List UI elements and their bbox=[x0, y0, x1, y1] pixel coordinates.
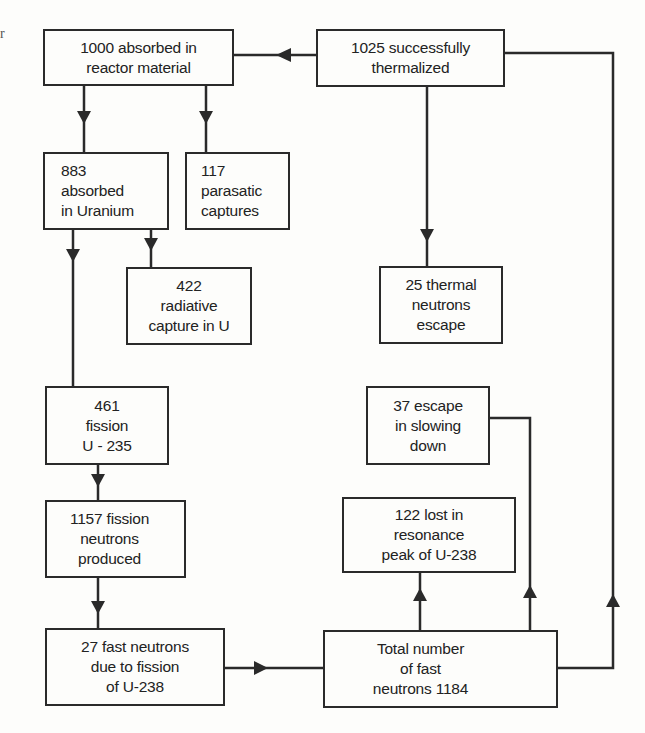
node-text: U - 235 bbox=[82, 436, 131, 456]
node-text: neutrons 1184 bbox=[373, 679, 468, 699]
node-total-fast-neutrons: Total number of fast neutrons 1184 bbox=[323, 630, 558, 708]
node-text: 122 lost in bbox=[395, 505, 463, 525]
node-text: Total number bbox=[377, 639, 464, 659]
node-text: radiative bbox=[161, 296, 218, 316]
node-text: 1157 fission bbox=[70, 509, 149, 529]
node-text: captures bbox=[201, 201, 259, 221]
node-text: produced bbox=[78, 549, 141, 569]
node-thermal-neutrons-escape: 25 thermal neutrons escape bbox=[379, 266, 503, 344]
node-text: 25 thermal bbox=[405, 275, 476, 295]
node-text: resonance bbox=[394, 525, 465, 545]
node-text: absorbed bbox=[61, 181, 124, 201]
node-text: 422 bbox=[176, 276, 201, 296]
node-text: 37 escape bbox=[393, 396, 463, 416]
node-escape-in-slowing-down: 37 escape in slowing down bbox=[366, 386, 490, 465]
node-text: down bbox=[410, 436, 446, 456]
node-radiative-capture: 422 radiative capture in U bbox=[126, 267, 252, 345]
node-text: peak of U-238 bbox=[382, 545, 477, 565]
node-text: in Uranium bbox=[61, 201, 134, 221]
node-text: neutrons bbox=[80, 529, 139, 549]
node-successfully-thermalized: 1025 successfully thermalized bbox=[316, 29, 505, 87]
node-absorbed-in-uranium: 883 absorbed in Uranium bbox=[43, 152, 169, 230]
node-text: 117 bbox=[201, 161, 225, 181]
node-text: due to fission bbox=[91, 657, 180, 677]
node-text: of fast bbox=[400, 659, 441, 679]
node-text: in slowing bbox=[395, 416, 461, 436]
node-text: parasatic bbox=[201, 181, 262, 201]
node-text: 1025 successfully bbox=[351, 38, 470, 58]
node-text: neutrons bbox=[412, 295, 471, 315]
node-text: escape bbox=[417, 315, 466, 335]
node-parasitic-captures: 117 parasatic captures bbox=[185, 152, 290, 230]
node-fission-neutrons-produced: 1157 fission neutrons produced bbox=[45, 500, 186, 578]
connector-lines bbox=[0, 0, 645, 733]
node-fission-u235: 461 fission U - 235 bbox=[45, 386, 169, 465]
node-fast-neutrons-u238-fission: 27 fast neutrons due to fission of U-238 bbox=[45, 628, 225, 706]
node-text: 883 bbox=[61, 161, 86, 181]
node-text: 461 bbox=[94, 396, 119, 416]
node-text: of U-238 bbox=[106, 677, 164, 697]
node-text: reactor material bbox=[86, 58, 190, 78]
node-text: 27 fast neutrons bbox=[81, 637, 189, 657]
node-text: fission bbox=[86, 416, 129, 436]
node-absorbed-in-reactor-material: 1000 absorbed in reactor material bbox=[43, 29, 234, 86]
arrowheads bbox=[66, 48, 620, 675]
node-resonance-peak-loss: 122 lost in resonance peak of U-238 bbox=[342, 497, 516, 573]
node-text: thermalized bbox=[372, 58, 450, 78]
node-text: 1000 absorbed in bbox=[80, 38, 197, 58]
neutron-cycle-diagram: r bbox=[0, 0, 645, 733]
node-text: capture in U bbox=[148, 316, 229, 336]
